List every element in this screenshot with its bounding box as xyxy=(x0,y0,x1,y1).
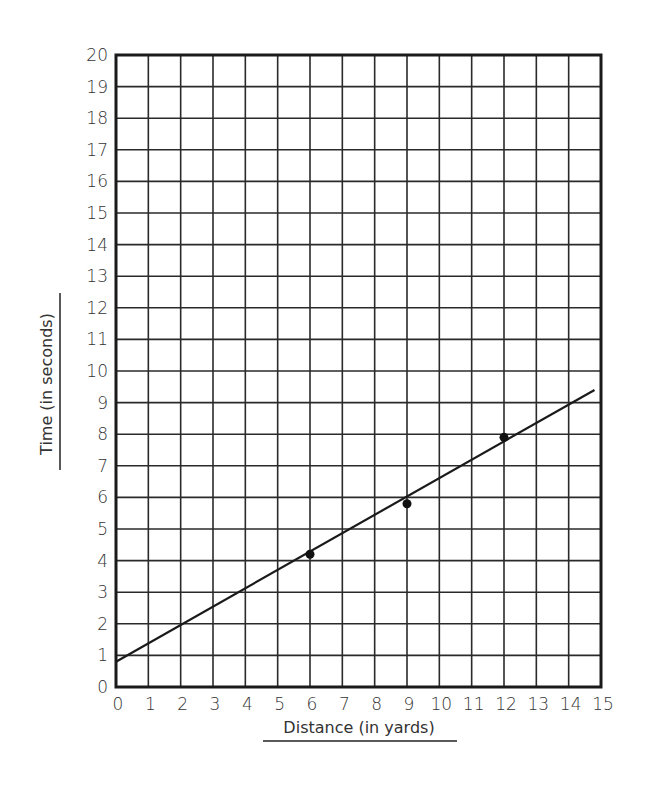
x-tick-label: 0 xyxy=(113,694,124,714)
y-tick-label: 9 xyxy=(97,393,108,413)
y-tick-label: 13 xyxy=(86,266,108,286)
y-tick-label: 19 xyxy=(86,77,108,97)
x-tick-label: 1 xyxy=(145,694,156,714)
x-tick-label: 12 xyxy=(495,694,517,714)
x-tick-label: 4 xyxy=(242,694,253,714)
data-point xyxy=(500,433,509,442)
x-tick-label: 10 xyxy=(431,694,453,714)
y-axis-ticks: 01234567891011121314151617181920 xyxy=(86,45,108,697)
y-tick-label: 10 xyxy=(86,361,108,381)
y-tick-label: 3 xyxy=(97,582,108,602)
y-tick-label: 11 xyxy=(86,329,108,349)
y-tick-label: 2 xyxy=(97,614,108,634)
y-tick-label: 20 xyxy=(86,45,108,65)
x-tick-label: 14 xyxy=(560,694,582,714)
y-tick-label: 17 xyxy=(86,140,108,160)
y-tick-label: 7 xyxy=(97,456,108,476)
x-axis-ticks: 0123456789101112131415 xyxy=(113,694,614,714)
x-tick-label: 9 xyxy=(404,694,415,714)
x-tick-label: 2 xyxy=(177,694,188,714)
x-tick-label: 3 xyxy=(210,694,221,714)
line-graph: 01234567891011121314151617181920 0123456… xyxy=(0,0,646,789)
x-tick-label: 6 xyxy=(307,694,318,714)
data-point xyxy=(403,499,412,508)
y-tick-label: 1 xyxy=(97,645,108,665)
y-tick-label: 12 xyxy=(86,298,108,318)
x-tick-label: 11 xyxy=(463,694,485,714)
x-axis-label: Distance (in yards) xyxy=(283,718,434,737)
data-point xyxy=(306,550,315,559)
x-tick-label: 13 xyxy=(528,694,550,714)
x-tick-label: 8 xyxy=(371,694,382,714)
y-axis-label: Time (in seconds) xyxy=(37,313,56,456)
y-tick-label: 15 xyxy=(86,203,108,223)
x-tick-label: 5 xyxy=(274,694,285,714)
y-tick-label: 18 xyxy=(86,108,108,128)
y-tick-label: 4 xyxy=(97,551,108,571)
y-tick-label: 5 xyxy=(97,519,108,539)
y-tick-label: 6 xyxy=(97,487,108,507)
best-fit-line xyxy=(116,390,595,662)
y-tick-label: 14 xyxy=(86,235,108,255)
x-tick-label: 7 xyxy=(339,694,350,714)
grid-lines xyxy=(116,55,601,687)
x-tick-label: 15 xyxy=(592,694,614,714)
y-tick-label: 8 xyxy=(97,424,108,444)
y-tick-label: 0 xyxy=(97,677,108,697)
y-tick-label: 16 xyxy=(86,171,108,191)
